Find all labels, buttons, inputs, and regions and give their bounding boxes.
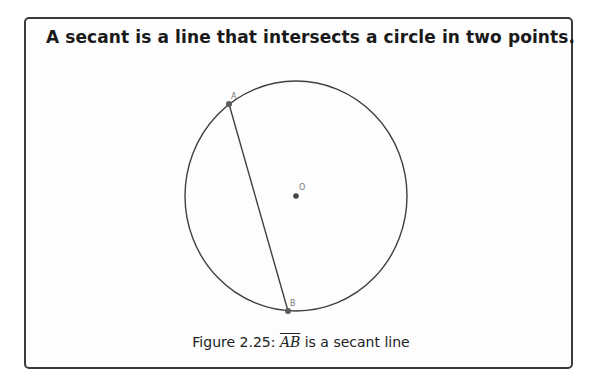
caption-math-ab: AB xyxy=(280,334,300,350)
caption-prefix: Figure 2.25: xyxy=(192,334,280,350)
point-b xyxy=(285,308,291,314)
point-a xyxy=(226,101,232,107)
secant-figure: A B O xyxy=(0,0,602,379)
caption-suffix: is a secant line xyxy=(300,334,409,350)
label-b: B xyxy=(290,299,296,308)
label-o: O xyxy=(299,183,305,192)
figure-caption: Figure 2.25: AB is a secant line xyxy=(0,334,602,350)
secant-segment-ab xyxy=(229,104,288,311)
label-a: A xyxy=(231,92,237,101)
point-o-center xyxy=(293,193,299,199)
